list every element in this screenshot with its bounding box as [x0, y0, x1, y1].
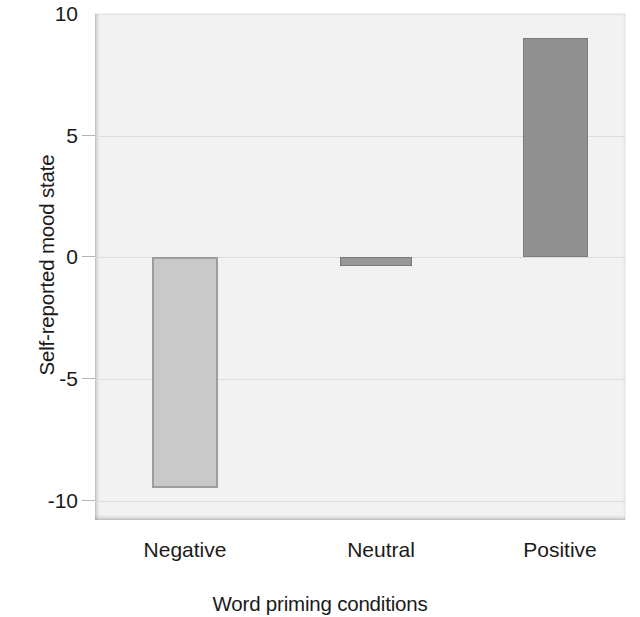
x-tick-label-neutral: Neutral	[301, 538, 461, 562]
y-tick-mark-neg5	[82, 378, 96, 379]
y-tick-mark-0	[82, 256, 96, 257]
y-tick-mark-5	[82, 135, 96, 136]
x-tick-label-negative: Negative	[105, 538, 265, 562]
y-axis-tick-labels: 10 5 0 -5 -10	[20, 0, 78, 617]
x-tick-label-positive: Positive	[480, 538, 640, 562]
plot-area	[95, 13, 626, 520]
bar-neutral	[340, 257, 412, 266]
x-axis-tick-labels: Negative Neutral Positive	[0, 538, 640, 568]
y-tick-label-neg5: -5	[20, 368, 78, 389]
y-tick-label-neg10: -10	[20, 490, 78, 511]
y-tick-label-5: 5	[20, 125, 78, 146]
gridline-neg10	[95, 501, 625, 502]
x-axis-title: Word priming conditions	[0, 592, 640, 616]
bar-chart-figure: Self-reported mood state 10 5 0 -5 -10 N…	[0, 0, 640, 617]
bar-negative	[152, 257, 218, 488]
y-tick-label-10: 10	[20, 3, 78, 24]
y-tick-label-0: 0	[20, 246, 78, 267]
y-tick-mark-neg10	[82, 500, 96, 501]
bar-positive	[523, 38, 588, 257]
